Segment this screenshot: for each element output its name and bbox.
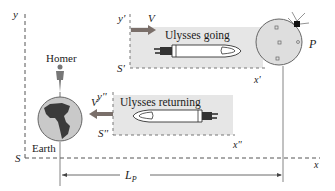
s-prime-y-label: y' [118,13,125,24]
earth-icon [38,97,82,141]
homer-figure-icon [56,65,64,99]
distance-arrow [62,173,282,177]
s-double-prime-title: Ulysses returning [120,97,201,109]
s-origin-label: S [15,153,21,164]
s-y-label: y [13,9,18,20]
s-prime-x-label: x' [254,75,261,85]
distance-label-main: L [125,168,132,182]
s-x-label: x [314,160,318,170]
earth-label: Earth [32,143,56,154]
homer-label: Homer [46,53,77,64]
s-prime-velocity-label: V [148,13,155,24]
planet-label: P [309,38,316,50]
distance-label: LP [125,169,137,184]
s-double-prime-x-label: x'' [233,140,242,150]
s-prime-origin-label: S' [117,63,125,74]
velocity-arrow-left-icon [89,109,113,119]
distance-label-subscript: P [132,175,137,184]
s-double-prime-y-label: y'' [97,91,107,102]
s-double-prime-velocity-label: V [91,97,98,108]
s-double-prime-origin-label: S'' [98,128,108,139]
s-prime-title: Ulysses going [165,30,230,42]
